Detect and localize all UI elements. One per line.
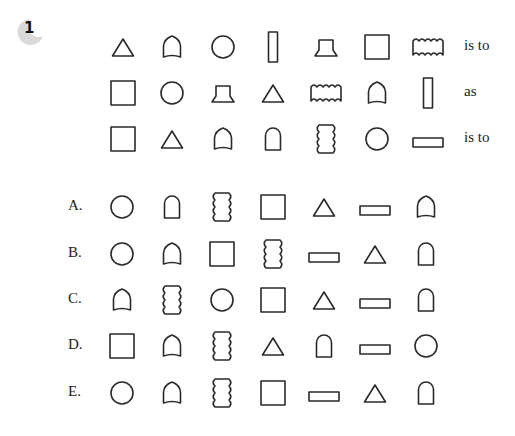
- circle-shape: [111, 243, 133, 265]
- pointed-arch-shape: [215, 128, 232, 149]
- flat-rectangle-shape: [360, 206, 390, 215]
- square-shape: [261, 381, 285, 405]
- square-shape: [110, 334, 134, 358]
- pointed-arch-shape: [164, 382, 181, 403]
- round-arch-shape: [266, 128, 281, 150]
- flat-rectangle-shape: [413, 138, 443, 147]
- pointed-arch-shape: [164, 36, 181, 57]
- triangle-shape: [263, 85, 284, 102]
- flat-rectangle-shape: [360, 299, 390, 308]
- row-connector: is to: [464, 129, 489, 146]
- wavy-vertical-rectangle-shape: [317, 125, 335, 153]
- triangle-shape: [365, 246, 386, 263]
- pointed-arch-shape: [164, 243, 181, 264]
- answer-option-row[interactable]: [111, 379, 434, 407]
- wavy-vertical-rectangle-shape: [213, 379, 231, 407]
- square-shape: [261, 195, 285, 219]
- triangle-shape: [365, 385, 386, 402]
- triangle-shape: [162, 131, 183, 148]
- round-arch-shape: [165, 196, 180, 218]
- round-arch-shape: [317, 335, 332, 357]
- square-shape: [111, 81, 135, 105]
- question-row: [111, 78, 433, 108]
- circle-shape: [211, 289, 233, 311]
- flat-rectangle-shape: [360, 345, 390, 354]
- answer-option-label: B.: [68, 244, 82, 261]
- flat-rectangle-shape: [309, 253, 339, 262]
- round-arch-shape: [419, 243, 434, 265]
- wavy-vertical-rectangle-shape: [213, 332, 231, 360]
- circle-shape: [111, 196, 133, 218]
- answer-option-row[interactable]: [114, 286, 434, 314]
- square-shape: [111, 127, 135, 151]
- tall-rectangle-shape: [269, 32, 278, 62]
- wavy-vertical-rectangle-shape: [213, 193, 231, 221]
- answer-option-row[interactable]: [111, 193, 435, 221]
- answer-option-label: A.: [68, 197, 83, 214]
- circle-shape: [161, 82, 183, 104]
- tall-rectangle-shape: [424, 78, 433, 108]
- circle-shape: [111, 382, 133, 404]
- triangle-shape: [314, 292, 335, 309]
- answer-option-label: E.: [68, 383, 81, 400]
- wavy-horizontal-rectangle-shape: [413, 39, 443, 55]
- answer-option-row[interactable]: [110, 332, 437, 360]
- analogy-figure: [0, 0, 515, 436]
- pointed-arch-shape: [114, 289, 131, 310]
- square-shape: [365, 35, 389, 59]
- wavy-vertical-rectangle-shape: [163, 286, 181, 314]
- flat-rectangle-shape: [309, 392, 339, 401]
- round-arch-shape: [419, 382, 434, 404]
- pointed-arch-shape: [418, 196, 435, 217]
- pointed-arch-shape: [164, 335, 181, 356]
- circle-shape: [366, 128, 388, 150]
- answer-option-label: D.: [68, 336, 83, 353]
- row-connector: is to: [464, 37, 489, 54]
- circle-shape: [212, 36, 234, 58]
- answer-option-label: C.: [68, 290, 82, 307]
- answer-option-row[interactable]: [111, 240, 434, 268]
- circle-shape: [415, 335, 437, 357]
- square-shape: [210, 242, 234, 266]
- square-shape: [261, 288, 285, 312]
- wavy-vertical-rectangle-shape: [264, 240, 282, 268]
- row-connector: as: [464, 83, 477, 100]
- question-row: [113, 32, 444, 62]
- triangle-shape: [113, 39, 134, 56]
- question-row: [111, 125, 443, 153]
- triangle-shape: [263, 338, 284, 355]
- pedestal-shape: [212, 86, 234, 102]
- wavy-horizontal-rectangle-shape: [311, 85, 341, 101]
- triangle-shape: [314, 199, 335, 216]
- pointed-arch-shape: [369, 82, 386, 103]
- pedestal-shape: [315, 40, 337, 56]
- round-arch-shape: [419, 289, 434, 311]
